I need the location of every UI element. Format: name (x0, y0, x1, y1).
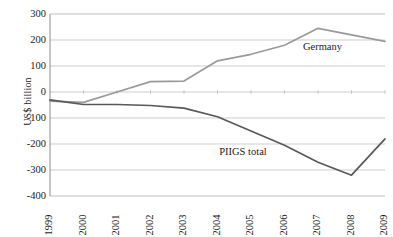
series-label-germany: Germany (303, 41, 342, 52)
x-tick-label: 1999 (44, 214, 55, 235)
y-tick-label: 100 (4, 61, 46, 72)
x-axis-tick-labels: 1999200020012002200320042005200620072008… (50, 196, 385, 237)
y-tick-label: -300 (4, 165, 46, 176)
x-tick-label: 2004 (211, 214, 222, 235)
series-line-piigs-total (50, 100, 385, 175)
y-axis-tick-labels: 3002001000-100-200-300-400 (0, 0, 46, 237)
x-tick-label: 2001 (111, 214, 122, 235)
x-tick-label: 2008 (345, 214, 356, 235)
line-chart: US$ billion 3002001000-100-200-300-400 1… (0, 0, 393, 237)
y-tick-label: -400 (4, 191, 46, 202)
x-tick-label: 2005 (245, 214, 256, 235)
y-tick-label: 300 (4, 9, 46, 20)
y-tick-label: -200 (4, 139, 46, 150)
series-label-piigs-total: PIIGS total (219, 146, 267, 157)
y-tick-label: 200 (4, 35, 46, 46)
x-tick-label: 2000 (77, 214, 88, 235)
x-tick-label: 2003 (178, 214, 189, 235)
y-tick-label: -100 (4, 113, 46, 124)
x-tick-label: 2009 (379, 214, 390, 235)
y-tick-label: 0 (4, 87, 46, 98)
x-tick-label: 2002 (144, 214, 155, 235)
x-tick-label: 2006 (278, 214, 289, 235)
x-tick-label: 2007 (312, 214, 323, 235)
